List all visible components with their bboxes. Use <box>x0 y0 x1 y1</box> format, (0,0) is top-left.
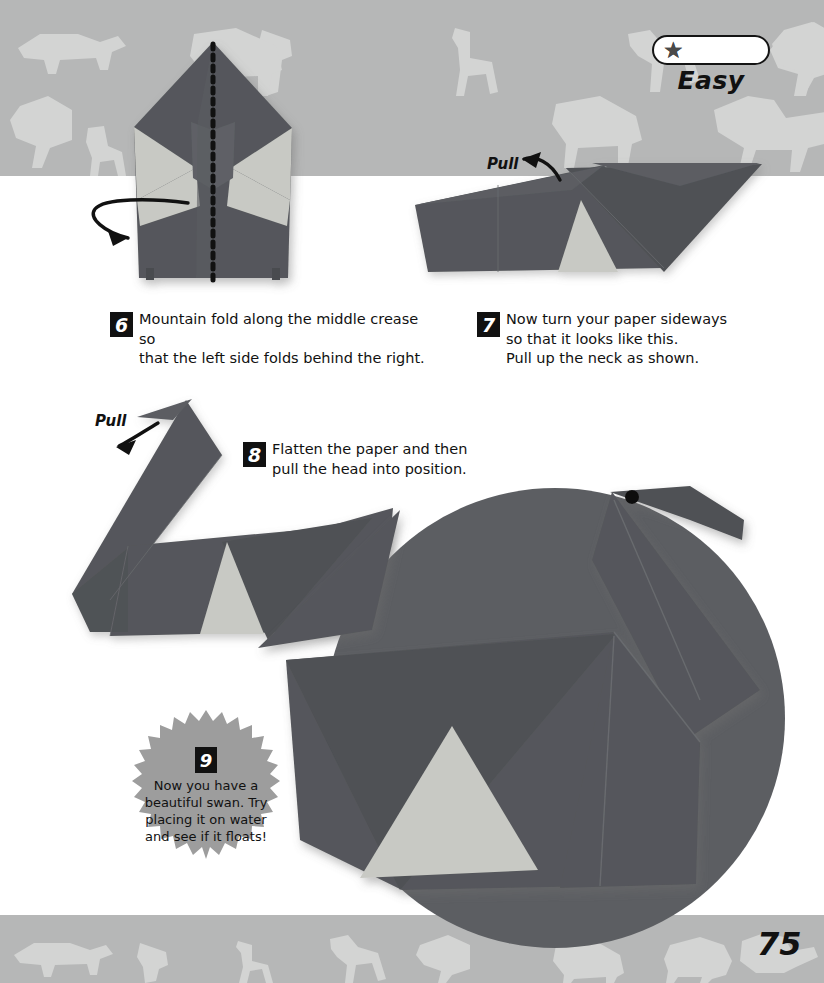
starburst-content: 9 Now you have a beautiful swan. Try pla… <box>118 708 294 884</box>
step-7-diagram <box>415 163 762 272</box>
step-7: 7 Now turn your paper sideways so that i… <box>477 310 777 369</box>
step-9-text: Now you have a beautiful swan. Try placi… <box>131 777 281 845</box>
pull-label-step7: Pull <box>487 155 518 173</box>
step-7-number: 7 <box>477 312 500 337</box>
step-7-arrowhead <box>522 152 541 168</box>
step-6-text: Mountain fold along the middle crease so… <box>139 310 430 369</box>
step-9-starburst: 9 Now you have a beautiful swan. Try pla… <box>118 708 294 884</box>
pull-label-step8: Pull <box>95 412 126 430</box>
origami-instruction-page: ★ Easy <box>0 0 824 983</box>
page-number: 75 <box>757 925 802 963</box>
step-7-text: Now turn your paper sideways so that it … <box>506 310 727 369</box>
step-6-number: 6 <box>110 312 133 337</box>
step-9-number: 9 <box>195 747 217 773</box>
step-8: 8 Flatten the paper and then pull the he… <box>243 440 493 479</box>
step-8-text: Flatten the paper and then pull the head… <box>272 440 467 479</box>
step-6: 6 Mountain fold along the middle crease … <box>110 310 430 369</box>
step-8-number: 8 <box>243 442 266 467</box>
